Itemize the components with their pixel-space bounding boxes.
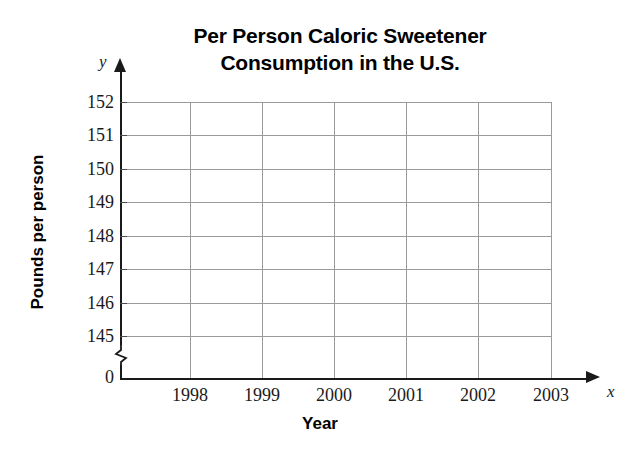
gridline-vertical (551, 102, 552, 378)
chart-title: Per Person Caloric Sweetener Consumption… (150, 22, 530, 76)
gridline-vertical (262, 102, 263, 378)
y-axis-arrow-icon (114, 58, 126, 72)
x-axis-arrow-icon (586, 371, 600, 383)
gridline-horizontal (120, 336, 552, 337)
x-axis-letter: x (607, 382, 615, 402)
y-tick-mark (120, 269, 127, 270)
plot-area (120, 102, 552, 378)
gridline-vertical (334, 102, 335, 378)
chart-title-line-1: Per Person Caloric Sweetener (150, 22, 530, 49)
x-axis-line (120, 378, 587, 380)
gridline-vertical (190, 102, 191, 378)
y-tick-mark (120, 336, 127, 337)
x-tick-label: 2001 (368, 385, 444, 406)
gridline-horizontal (120, 236, 552, 237)
x-tick-label: 1999 (224, 385, 300, 406)
y-tick-label: 145 (68, 326, 114, 347)
gridline-horizontal (120, 303, 552, 304)
gridline-horizontal (120, 202, 552, 203)
y-tick-label: 152 (68, 92, 114, 113)
gridline-horizontal (120, 169, 552, 170)
x-tick-label: 2002 (440, 385, 516, 406)
chart-title-line-2: Consumption in the U.S. (150, 49, 530, 76)
gridline-horizontal (120, 135, 552, 136)
y-tick-label: 148 (68, 226, 114, 247)
gridline-vertical (406, 102, 407, 378)
axis-break-icon (111, 341, 131, 369)
y-tick-label: 151 (68, 125, 114, 146)
y-axis-line (120, 72, 122, 378)
y-tick-label: 146 (68, 293, 114, 314)
x-tick-label: 2003 (513, 385, 589, 406)
y-tick-label: 150 (68, 159, 114, 180)
y-axis-title: Pounds per person (28, 132, 48, 332)
y-tick-mark (120, 236, 127, 237)
gridline-horizontal (120, 269, 552, 270)
y-tick-mark (120, 135, 127, 136)
chart-figure: Per Person Caloric Sweetener Consumption… (0, 0, 642, 459)
y-axis-letter: y (99, 52, 107, 72)
y-tick-mark (120, 303, 127, 304)
gridline-vertical (478, 102, 479, 378)
x-tick-label: 2000 (296, 385, 372, 406)
x-tick-label: 1998 (152, 385, 228, 406)
y-tick-label: 147 (68, 259, 114, 280)
gridline-horizontal (120, 102, 552, 103)
y-tick-mark (120, 202, 127, 203)
y-tick-label: 149 (68, 192, 114, 213)
y-tick-mark (120, 102, 127, 103)
x-axis-title: Year (240, 414, 400, 434)
y-origin-label: 0 (68, 367, 114, 388)
y-tick-mark (120, 169, 127, 170)
